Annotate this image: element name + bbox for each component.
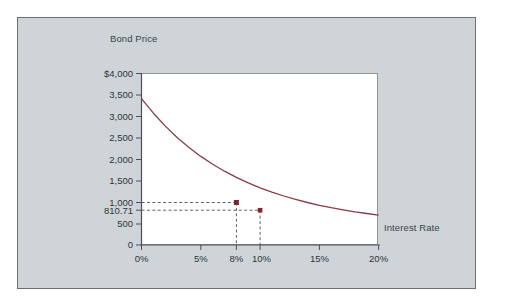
y-axis-title: Bond Price <box>110 33 157 44</box>
y-tick-label-810: 810.71 <box>78 206 133 216</box>
y-tick-label-2500: 2,500 <box>78 133 133 143</box>
y-axis-ticks <box>136 74 142 246</box>
x-tick-label-20pct: 20% <box>369 254 388 264</box>
y-tick-label-3000: 3,000 <box>78 112 133 122</box>
x-tick-label-8pct: 8% <box>230 254 244 264</box>
y-tick-label-500: 500 <box>78 219 133 229</box>
x-tick-label-0pct: 0% <box>135 254 149 264</box>
data-point-marker-8pct <box>234 200 239 205</box>
bond-price-chart-figure: Bond Price Interest Rate $4,000 3,500 3,… <box>0 0 506 308</box>
guide-lines <box>142 203 261 246</box>
x-axis-title: Interest Rate <box>384 222 440 233</box>
x-axis-ticks <box>142 245 379 250</box>
y-tick-label-1500: 1,500 <box>78 176 133 186</box>
y-tick-label-0: 0 <box>78 240 133 250</box>
data-point-marker-10pct <box>258 208 263 213</box>
x-tick-label-15pct: 15% <box>310 254 329 264</box>
x-tick-label-5pct: 5% <box>194 254 208 264</box>
x-tick-label-10pct: 10% <box>252 254 271 264</box>
bond-price-curve <box>142 99 379 216</box>
y-tick-label-4000: $4,000 <box>78 69 133 79</box>
y-tick-label-3500: 3,500 <box>78 90 133 100</box>
y-tick-label-2000: 2,000 <box>78 155 133 165</box>
